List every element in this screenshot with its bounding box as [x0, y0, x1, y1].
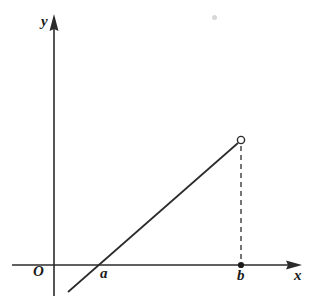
y-axis-label: y	[41, 14, 48, 29]
x-axis-label: x	[294, 268, 302, 283]
origin-label: O	[33, 264, 44, 279]
coordinate-figure: y x O a b	[0, 0, 321, 308]
scan-artifact-speck	[212, 15, 217, 20]
tick-label-b: b	[237, 268, 245, 283]
y-axis-arrow-icon	[50, 14, 59, 31]
open-endpoint-circle-icon	[237, 136, 244, 143]
linear-function-segment	[68, 143, 238, 292]
figure-canvas	[0, 0, 321, 308]
tick-label-a: a	[100, 266, 108, 281]
